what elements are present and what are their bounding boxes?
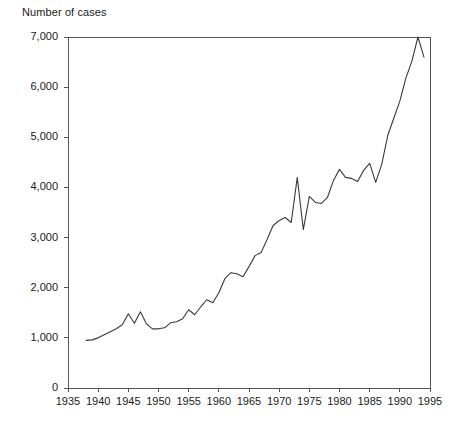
axis-frame	[68, 37, 430, 388]
y-tick-label: 2,000	[0, 282, 58, 293]
chart-container: Number of cases 01,0002,0003,0004,0005,0…	[0, 0, 455, 425]
y-tick-label: 6,000	[0, 81, 58, 92]
y-tick-label: 1,000	[0, 332, 58, 343]
line-chart-svg	[0, 0, 455, 425]
y-axis-ticks	[64, 37, 68, 388]
y-tick-label: 4,000	[0, 181, 58, 192]
y-tick-label: 0	[0, 382, 58, 393]
y-tick-label: 3,000	[0, 232, 58, 243]
x-axis-ticks	[68, 388, 430, 392]
y-tick-label: 5,000	[0, 131, 58, 142]
x-tick-label: 1995	[408, 396, 452, 407]
y-tick-label: 7,000	[0, 31, 58, 42]
data-series-group	[86, 37, 424, 340]
